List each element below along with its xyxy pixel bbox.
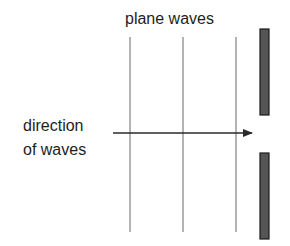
direction-label-line1: direction: [23, 114, 86, 138]
wavefront-lines: [130, 37, 236, 232]
diagram-canvas: plane waves direction of waves: [0, 0, 290, 246]
direction-label-line2: of waves: [23, 138, 86, 162]
plane-waves-label: plane waves: [125, 10, 214, 28]
bottom-barrier: [260, 153, 269, 239]
top-barrier: [260, 29, 269, 115]
slit-barriers: [260, 29, 269, 239]
direction-of-waves-label: direction of waves: [23, 114, 86, 162]
